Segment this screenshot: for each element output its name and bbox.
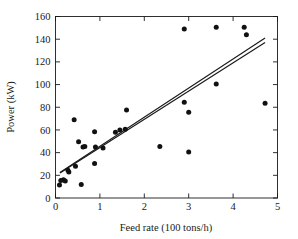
data-point: [186, 110, 191, 115]
data-point: [124, 108, 129, 113]
y-tick-label: 80: [40, 102, 51, 113]
data-point: [113, 130, 118, 135]
x-tick-label: 1: [97, 201, 102, 212]
y-tick-label: 60: [40, 125, 51, 136]
data-point: [72, 117, 77, 122]
data-point: [182, 26, 187, 31]
x-tick-label: 2: [142, 201, 147, 212]
y-tick-label: 120: [35, 56, 51, 67]
data-point: [242, 25, 247, 30]
data-point: [101, 146, 106, 151]
data-point: [214, 25, 219, 30]
data-point: [244, 32, 249, 37]
chart-canvas: 012345 020406080100120140160 Feed rate (…: [0, 0, 298, 239]
y-tick-label: 160: [35, 11, 51, 22]
y-tick-label: 20: [40, 170, 51, 181]
data-point: [263, 101, 268, 106]
data-point: [123, 127, 128, 132]
data-point: [79, 182, 84, 187]
y-tick-label: 40: [40, 147, 51, 158]
scatter-plot-figure: 012345 020406080100120140160 Feed rate (…: [0, 0, 298, 239]
y-axis-title: Power (kW): [5, 81, 17, 133]
y-tick-label: 140: [35, 34, 51, 45]
data-point: [182, 100, 187, 105]
data-point: [73, 164, 78, 169]
x-tick-label: 3: [186, 201, 191, 212]
data-point: [92, 161, 97, 166]
data-point: [214, 81, 219, 86]
data-point: [157, 144, 162, 149]
data-point: [66, 169, 71, 174]
y-tick-label: 100: [35, 79, 51, 90]
data-point: [57, 182, 62, 187]
y-tick-label: 0: [45, 193, 50, 204]
data-point: [117, 127, 122, 132]
data-point: [186, 150, 191, 155]
data-point: [82, 144, 87, 149]
data-point: [93, 144, 98, 149]
data-point: [92, 129, 97, 134]
x-tick-label: 4: [230, 201, 236, 212]
x-tick-label: 0: [53, 201, 58, 212]
x-tick-label: 5: [275, 201, 280, 212]
data-point: [63, 178, 68, 183]
x-axis-title: Feed rate (100 tons/h): [120, 222, 213, 234]
data-point: [76, 139, 81, 144]
